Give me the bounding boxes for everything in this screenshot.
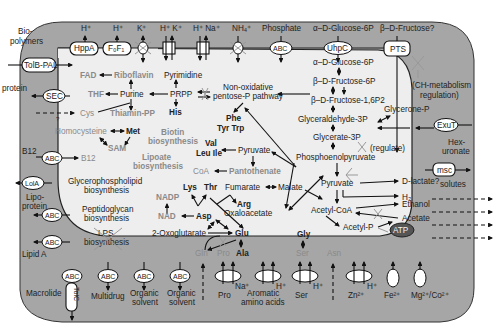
multidrug-label: Multidrug: [91, 292, 125, 301]
macrolide-abc-label: ABC: [65, 273, 79, 280]
organic-solvent-2b: solvent: [169, 298, 196, 307]
hexuronate-2: uronate: [442, 147, 470, 156]
pyruvate-upper: Pyruvate: [238, 146, 271, 155]
oxoglutarate: 2-Oxoglutarate: [152, 229, 207, 238]
lipoprotein-label-2: protein: [22, 202, 47, 211]
gln: Gln: [195, 249, 208, 258]
nad: NAD: [158, 212, 176, 221]
h-k-label: H⁺ K⁺: [160, 24, 182, 33]
atp-label: ATP: [393, 226, 409, 235]
mgco-label: Mg²⁺/Co²⁺: [411, 291, 449, 300]
organic-solvent-2a: Organic: [167, 289, 196, 298]
ser-in: Ser: [296, 249, 309, 258]
hppa-label: HppA: [74, 44, 95, 53]
aromatic-aa-symporter[interactable]: [255, 270, 281, 282]
lola-label: LolA: [25, 180, 39, 187]
g3p: Glyceraldehyde-3P: [298, 115, 368, 124]
ala: Ala: [236, 249, 249, 258]
ppp-1: Non-oxidative: [223, 83, 274, 92]
glc6p: α–D-Glucose-6P: [313, 58, 374, 67]
nadp: NADP: [156, 193, 180, 202]
prpp: PRPP: [170, 90, 193, 99]
asn: Asn: [327, 249, 342, 258]
zn-label: Zn²⁺: [348, 291, 364, 300]
phosphate-abc-label: ABC: [273, 45, 287, 52]
k-plus: K⁺: [137, 24, 146, 33]
val: Val: [205, 139, 217, 148]
lipoprotein-label-1: Lipo-: [26, 193, 44, 202]
lipid-a-abc-label: ABC: [45, 239, 59, 246]
arg: Arg: [237, 200, 251, 209]
thr: Thr: [204, 183, 218, 192]
metabolic-pathway-diagram: Bio- polymers TolB-PAL H⁺ HppA H⁺ F₀F₁ K…: [0, 0, 494, 328]
gpl-1: Glycerophospholipid: [68, 177, 143, 186]
macrolide-label: Macrolide: [26, 289, 62, 298]
purine: Purine: [120, 90, 144, 99]
protein-label: protein: [2, 84, 27, 93]
biopolymers-label-1: Bio-: [18, 27, 33, 36]
protein-abc-label: ABC: [45, 212, 59, 219]
lipoate-2: biosynthesis: [133, 162, 183, 171]
glc6p-out-label: α–D-Glucose-6P: [313, 24, 374, 33]
hna-antiporter[interactable]: [197, 42, 209, 54]
fru16bp: β–D-Fructose-1,6P2: [311, 96, 385, 105]
ser-symporter[interactable]: [292, 270, 318, 282]
fe-transporter[interactable]: [387, 269, 399, 287]
glu: Glu: [235, 229, 249, 238]
h-ser-label: H⁺: [313, 282, 323, 291]
regulate: (regulate): [370, 144, 405, 153]
biotin-2: biosynthesis: [148, 137, 198, 146]
b12-out-label: B12: [22, 147, 37, 156]
h-plus-2: H⁺: [113, 24, 123, 33]
organic-solvent-1b: solvent: [132, 298, 159, 307]
h-plus-1: H⁺: [81, 24, 91, 33]
biopolymers-label-2: polymers: [10, 37, 43, 46]
organic-solvent-abc-2-label: ABC: [173, 273, 187, 280]
pro-label: Pro: [218, 291, 231, 300]
h-zn-label: H⁺: [367, 282, 377, 291]
b12-abc-label: ABC: [45, 155, 59, 162]
zn-symporter[interactable]: [346, 270, 372, 282]
fof1-label: F₀F₁: [108, 44, 124, 53]
fumarate: Fumarate: [225, 183, 260, 192]
uhpc-label: UhpC: [327, 44, 348, 53]
multidrug-abc-label: ABC: [101, 273, 115, 280]
acetyl-p: Acetyl-P: [343, 223, 374, 232]
ch-regulation-1: (CH-metabolism: [412, 81, 471, 90]
organic-solvent-abc-1-label: ABC: [137, 273, 151, 280]
nh4-label: NH₄⁺: [232, 24, 251, 33]
exut-label: ExuT: [437, 121, 456, 130]
tyr-trp: Tyr Trp: [217, 124, 244, 133]
met: Met: [126, 127, 140, 136]
tolb-pal-label: TolB-PAL: [24, 61, 58, 70]
fructose-out-label: β–D-Fructose?: [380, 24, 435, 33]
lipoate-1: Lipoate: [142, 153, 172, 162]
ser-out-label: Ser: [295, 291, 308, 300]
mg-co-transporter[interactable]: [414, 269, 426, 287]
glycerate-3p: Glycerate-3P: [313, 133, 361, 142]
pts-label: PTS: [390, 45, 406, 54]
solutes-label: solutes: [440, 180, 466, 189]
lps-2: biosynthesis: [84, 238, 129, 247]
pro-na-symporter[interactable]: [215, 270, 241, 282]
hexuronate-1: Hex-: [448, 138, 466, 147]
fe-label: Fe²⁺: [384, 291, 400, 300]
lys: Lys: [183, 183, 197, 192]
gpl-2: biosynthesis: [84, 186, 129, 195]
pyruvate: Pyruvate: [321, 179, 354, 188]
pro-in: Pro: [217, 249, 230, 258]
d-lactate: D-lactate?: [402, 177, 440, 186]
his: His: [169, 108, 182, 117]
coa: CoA: [193, 167, 209, 176]
b12-in: B12: [81, 154, 96, 163]
leu-ile: Leu Ile: [196, 149, 222, 158]
thiamin-pp: Thiamin-PP: [110, 109, 156, 118]
pyrimidine: Pyrimidine: [164, 71, 203, 80]
pg-2: biosynthesis: [84, 214, 129, 223]
glycerone-p: Glycerone-P: [384, 105, 430, 114]
lipid-a-label: Lipid A: [22, 250, 47, 259]
fru6p: β–D-Fructose-6P: [313, 77, 376, 86]
hk-antiporter[interactable]: [163, 42, 175, 54]
sam: SAM: [108, 144, 126, 153]
phosphate-label: Phosphate: [262, 24, 302, 33]
